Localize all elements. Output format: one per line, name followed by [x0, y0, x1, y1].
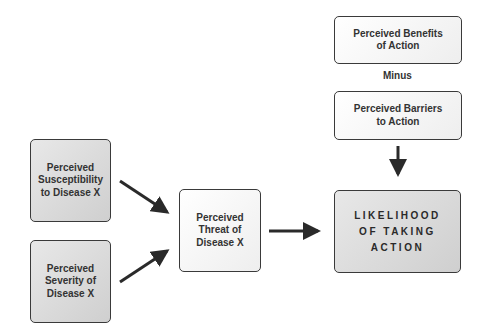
node-threat-label: Perceived Threat of Disease X [196, 212, 243, 250]
node-benefits-label: Perceived Benefits of Action [353, 28, 443, 53]
minus-label: Minus [383, 70, 412, 81]
node-severity: Perceived Severity of Disease X [30, 240, 111, 323]
node-susceptibility-label: Perceived Susceptibility to Disease X [38, 162, 103, 200]
node-severity-label: Perceived Severity of Disease X [45, 263, 96, 301]
arrow-susceptibility-to-threat [120, 181, 167, 212]
node-likelihood-label: LIKELIHOOD OF TAKING ACTION [354, 208, 441, 256]
node-threat: Perceived Threat of Disease X [179, 189, 261, 272]
node-benefits: Perceived Benefits of Action [334, 16, 462, 64]
node-susceptibility: Perceived Susceptibility to Disease X [30, 139, 111, 222]
node-likelihood: LIKELIHOOD OF TAKING ACTION [334, 190, 461, 273]
arrow-severity-to-threat [120, 251, 167, 282]
node-barriers-label: Perceived Barriers to Action [354, 103, 442, 128]
node-barriers: Perceived Barriers to Action [334, 91, 462, 140]
